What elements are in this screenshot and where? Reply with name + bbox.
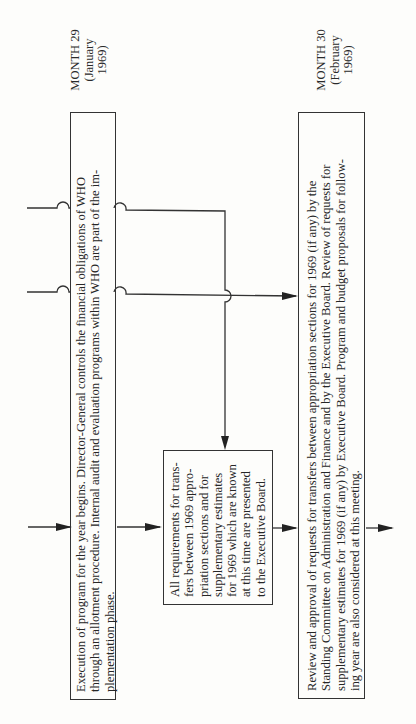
month-title: MONTH 30 (315, 28, 329, 92)
review-box-text: Review and approval of requests for tran… (305, 115, 363, 691)
month-29-label: MONTH 29 (January 1969) (69, 28, 110, 92)
lower-line (27, 286, 296, 296)
requirements-box-text: All requirements for trans- fers between… (168, 452, 268, 597)
execution-box-text: Execution of program for the year begins… (74, 116, 117, 692)
text-line: priation sections and for (197, 452, 211, 597)
arrowhead-output (378, 524, 394, 532)
text-line: plementation phase. (103, 116, 117, 692)
text-line: Execution of program for the year begins… (74, 116, 88, 692)
upper-line (27, 202, 231, 440)
text-line: ing year are also considered at this mee… (348, 115, 362, 691)
text-line: All requirements for trans- (168, 452, 182, 597)
arrowhead-req-review (282, 524, 298, 532)
text-line: to the Executive Board. (254, 452, 268, 597)
text-line: through an allotment procedure. Internal… (88, 116, 102, 692)
month-subtitle: (January (83, 28, 97, 92)
month-subtitle: (February (329, 28, 343, 92)
text-line: fers between 1969 appro- (182, 452, 196, 597)
month-year: 1969) (342, 28, 356, 92)
month-title: MONTH 29 (69, 28, 83, 92)
text-line: at this time are presented (239, 452, 253, 597)
arrowhead-review-upper (282, 292, 298, 300)
month-year: 1969) (96, 28, 110, 92)
text-line: supplementary estimates (211, 452, 225, 597)
arrowhead-exec-req (145, 523, 162, 531)
text-line: supplementary estimates for 1969 (if any… (334, 115, 348, 691)
month-30-label: MONTH 30 (February 1969) (315, 28, 356, 92)
arrowhead-req-down (221, 436, 229, 450)
text-line: for 1969 which are known (225, 452, 239, 597)
text-line: Review and approval of requests for tran… (305, 115, 319, 691)
text-line: Standing Committee on Administration and… (319, 115, 333, 691)
